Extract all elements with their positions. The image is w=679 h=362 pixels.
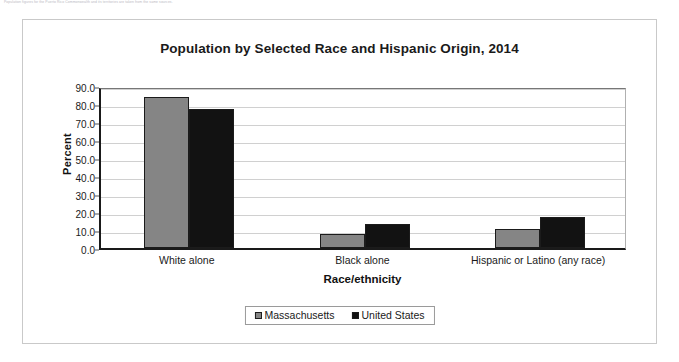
y-tick-label: 40.0 bbox=[76, 173, 95, 184]
bar-group bbox=[320, 89, 410, 248]
x-tick-label: Hispanic or Latino (any race) bbox=[471, 254, 605, 266]
y-tick-label: 0.0 bbox=[81, 245, 95, 256]
y-tick-label: 60.0 bbox=[76, 137, 95, 148]
chart-page: Population figures for the Puerto Rico C… bbox=[0, 0, 679, 362]
legend-swatch-icon bbox=[254, 312, 261, 319]
plot-wrapper: Percent 0.010.020.030.040.050.060.070.08… bbox=[23, 20, 656, 343]
legend-label: United States bbox=[361, 309, 424, 321]
bar-hispanic-or-latino-any-race-united-states bbox=[540, 217, 585, 248]
y-axis-ticks: 0.010.020.030.040.050.060.070.080.090.0 bbox=[53, 88, 99, 250]
bars-layer bbox=[101, 89, 625, 248]
legend-item-united-states[interactable]: United States bbox=[351, 309, 424, 321]
y-tick-label: 50.0 bbox=[76, 155, 95, 166]
bar-group bbox=[144, 89, 234, 248]
bar-hispanic-or-latino-any-race-massachusetts bbox=[495, 229, 540, 248]
y-tick-label: 10.0 bbox=[76, 227, 95, 238]
legend-label: Massachusetts bbox=[264, 309, 334, 321]
y-tick-label: 80.0 bbox=[76, 101, 95, 112]
y-tick-label: 70.0 bbox=[76, 119, 95, 130]
bar-white-alone-massachusetts bbox=[144, 97, 189, 248]
y-tick-label: 20.0 bbox=[76, 209, 95, 220]
x-axis-labels: White aloneBlack aloneHispanic or Latino… bbox=[99, 254, 626, 270]
chart-frame: Population by Selected Race and Hispanic… bbox=[22, 19, 657, 344]
y-tick-label: 30.0 bbox=[76, 191, 95, 202]
bar-black-alone-massachusetts bbox=[320, 234, 365, 248]
chart-legend: MassachusettsUnited States bbox=[244, 306, 434, 325]
bar-group bbox=[495, 89, 585, 248]
bar-white-alone-united-states bbox=[189, 109, 234, 248]
x-axis-title: Race/ethnicity bbox=[99, 273, 626, 285]
footnote-text: Population figures for the Puerto Rico C… bbox=[4, 0, 424, 5]
legend-item-massachusetts[interactable]: Massachusetts bbox=[254, 309, 334, 321]
plot-area bbox=[99, 88, 626, 250]
bar-black-alone-united-states bbox=[365, 224, 410, 248]
y-tick-label: 90.0 bbox=[76, 83, 95, 94]
x-tick-label: Black alone bbox=[335, 254, 389, 266]
legend-swatch-icon bbox=[351, 312, 358, 319]
x-tick-label: White alone bbox=[159, 254, 214, 266]
